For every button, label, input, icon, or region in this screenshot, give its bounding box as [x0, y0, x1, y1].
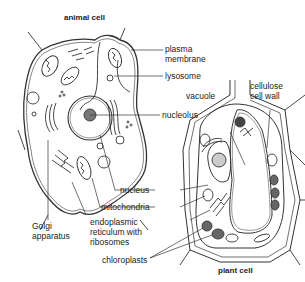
label-er-3: ribosomes: [90, 238, 129, 247]
label-lysosome: lysosome: [165, 72, 201, 81]
label-cellulose-1: cellulose: [250, 82, 283, 91]
label-vacuole: vacuole: [186, 92, 215, 101]
animal-cell: [18, 28, 163, 230]
label-golgi-2: apparatus: [32, 232, 70, 241]
plant-cell: [150, 80, 305, 265]
plant-cell-title: plant cell: [218, 266, 253, 275]
label-cellulose-2: cell wall: [250, 92, 280, 101]
label-golgi-1: Golgi: [32, 222, 52, 231]
label-plasma-membrane-2: membrane: [165, 55, 206, 64]
label-nucleolus: nucleolus: [162, 111, 198, 120]
label-plasma-membrane-1: plasma: [165, 45, 192, 54]
label-nucleus: nucleus: [120, 186, 149, 195]
label-mitochondria: mitochondria: [101, 203, 150, 212]
animal-cell-title: animal cell: [64, 13, 105, 22]
label-er-2: reticulum with: [90, 228, 142, 237]
label-er-1: endoplasmic: [90, 218, 138, 227]
label-chloroplasts: chloroplasts: [102, 256, 147, 265]
